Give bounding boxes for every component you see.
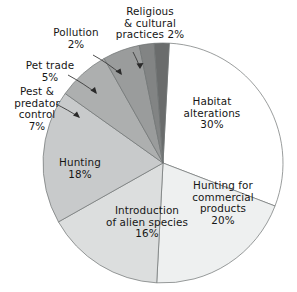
slice-label-introduction-alien-species: Introduction of alien species 16% [95, 205, 199, 240]
pie-chart: Religious & cultural practices 2% Pollut… [0, 0, 297, 292]
slice-label-pest-predator-control: Pest & predator control 7% [4, 86, 70, 133]
slice-label-hunting: Hunting 18% [42, 157, 118, 180]
slice-label-habitat-alterations: Habitat alterations 30% [168, 96, 256, 131]
slice-label-pet-trade: Pet trade 5% [14, 60, 86, 83]
slice-label-religious-cultural-practices: Religious & cultural practices 2% [104, 6, 196, 41]
slice-label-pollution: Pollution 2% [40, 27, 112, 50]
